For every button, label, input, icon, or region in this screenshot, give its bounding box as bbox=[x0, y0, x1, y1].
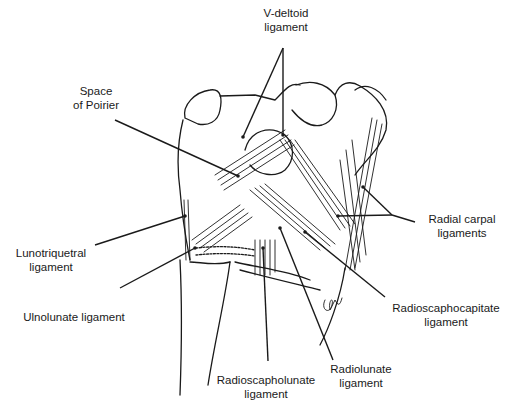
label-line: Radial carpal bbox=[416, 212, 508, 226]
radius-lower-edge bbox=[240, 270, 320, 290]
leader-radioscapholunate bbox=[263, 248, 268, 361]
label-line: ligament bbox=[326, 376, 396, 390]
label-v-deltoid-ligament: V-deltoid ligament bbox=[248, 6, 324, 34]
leader-radial-carpal-main bbox=[392, 215, 415, 222]
wrist-ligament-illustration bbox=[0, 0, 512, 415]
label-radiolunate-ligament: Radiolunate ligament bbox=[326, 362, 396, 390]
label-ulnolunate-ligament: Ulnolunate ligament bbox=[14, 310, 134, 324]
ulna-head-outline bbox=[190, 262, 230, 264]
label-line: Radioscapholunate bbox=[212, 373, 320, 387]
label-line: Space bbox=[58, 84, 134, 98]
leader-lunotriquetral bbox=[95, 216, 185, 245]
leader-ulnolunate bbox=[120, 248, 195, 288]
leader-radial-carpal-2 bbox=[338, 215, 392, 216]
ulna-outline-right bbox=[208, 262, 230, 385]
articular-band-lower bbox=[196, 254, 255, 256]
leader-space-of-poirier bbox=[115, 120, 238, 176]
label-line: Radioscaphocapitate bbox=[384, 301, 508, 315]
label-line: Radiolunate bbox=[326, 362, 396, 376]
label-line: of Poirier bbox=[58, 98, 134, 112]
triquetrum-outline bbox=[178, 120, 190, 260]
label-line: Ulnolunate ligament bbox=[14, 310, 134, 324]
label-space-of-poirier: Space of Poirier bbox=[58, 84, 134, 112]
signature-gm bbox=[324, 298, 342, 310]
label-line: Lunotriquetral bbox=[8, 246, 94, 260]
ulnar-carpal-bone-outline bbox=[185, 90, 221, 125]
label-line: V-deltoid bbox=[248, 6, 324, 20]
leader-v-deltoid-left bbox=[243, 48, 283, 137]
label-radial-carpal-ligaments: Radial carpal ligaments bbox=[416, 212, 508, 240]
label-line: ligament bbox=[212, 387, 320, 401]
scaphoid-outline bbox=[335, 83, 387, 175]
ulna-outline-left bbox=[180, 260, 182, 395]
label-line: ligament bbox=[384, 315, 508, 329]
articular-band bbox=[196, 247, 255, 250]
label-line: ligaments bbox=[416, 226, 508, 240]
label-lunotriquetral-ligament: Lunotriquetral ligament bbox=[8, 246, 94, 274]
label-radioscapholunate-ligament: Radioscapholunate ligament bbox=[212, 373, 320, 401]
leader-radioscaphocapitate bbox=[305, 232, 385, 297]
label-line: ligament bbox=[8, 260, 94, 274]
label-radioscaphocapitate-ligament: Radioscaphocapitate ligament bbox=[384, 301, 508, 329]
label-line: ligament bbox=[248, 20, 324, 34]
capitate-outline bbox=[292, 82, 337, 125]
